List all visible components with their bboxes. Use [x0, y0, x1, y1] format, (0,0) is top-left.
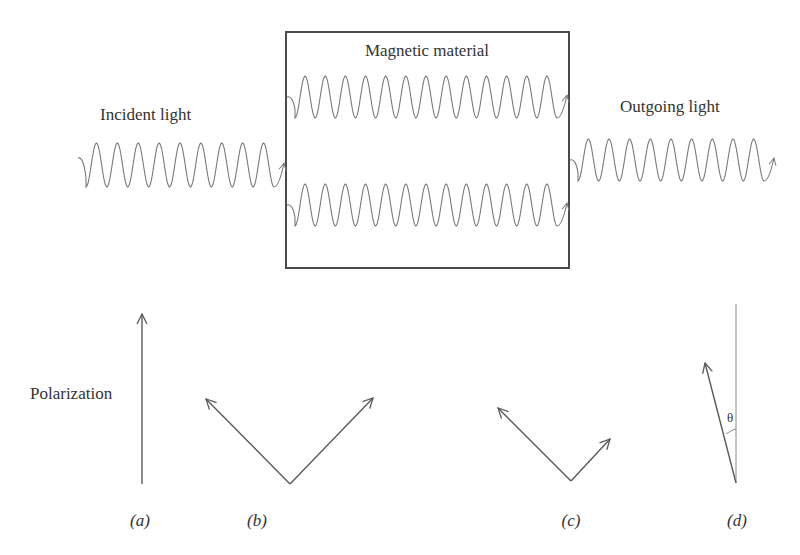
- panel-c: (c): [498, 408, 610, 530]
- outgoing-light-label: Outgoing light: [620, 97, 720, 116]
- magnetic-material-box: [286, 32, 569, 268]
- inner-wave-upper: [287, 76, 567, 118]
- panel-label-a: (a): [130, 511, 150, 530]
- panel-label-c: (c): [562, 511, 581, 530]
- polarization-label: Polarization: [30, 384, 113, 403]
- right-component-c: [571, 439, 610, 481]
- incident-light-label: Incident light: [100, 105, 191, 124]
- panel-label-b: (b): [247, 511, 267, 530]
- theta-symbol: θ: [727, 410, 733, 425]
- theta-angle-arc: [726, 429, 736, 434]
- panel-a: (a): [130, 314, 150, 530]
- panel-label-d: (d): [727, 511, 747, 530]
- right-component-b: [290, 398, 373, 484]
- left-component-b: [206, 399, 290, 484]
- panel-d: θ (d): [705, 304, 747, 530]
- incident-wave: [78, 143, 284, 187]
- inner-wave-lower: [287, 184, 567, 226]
- material-label: Magnetic material: [365, 41, 489, 60]
- faraday-effect-diagram: Magnetic material Incident light Outgoin…: [0, 0, 800, 555]
- outgoing-wave: [570, 139, 774, 181]
- panel-b: (b): [206, 398, 373, 530]
- left-component-c: [498, 408, 571, 481]
